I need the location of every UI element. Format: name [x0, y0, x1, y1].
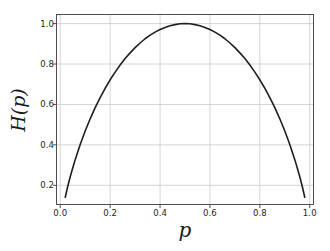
y-tick-label: 0.8 — [40, 59, 54, 69]
x-tick-label: 1.0 — [303, 208, 317, 218]
chart-figure: 0.00.20.40.60.81.0 0.20.40.60.81.0 p H(p… — [0, 0, 330, 251]
y-tick-label: 0.2 — [40, 180, 54, 190]
x-tick-label: 0.4 — [153, 208, 167, 218]
x-axis-label: p — [179, 218, 192, 242]
y-tick-label: 1.0 — [40, 19, 54, 29]
y-axis-label: H(p) — [7, 88, 29, 132]
y-tick-label: 0.6 — [40, 99, 54, 109]
x-tick-label: 0.8 — [253, 208, 267, 218]
y-tick-label: 0.4 — [40, 140, 54, 150]
x-tick-label: 0.2 — [103, 208, 117, 218]
x-tick-label: 0.0 — [53, 208, 67, 218]
x-tick-label: 0.6 — [203, 208, 217, 218]
